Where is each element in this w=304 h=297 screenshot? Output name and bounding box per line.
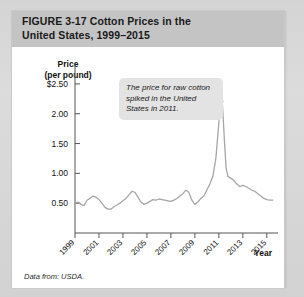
y-axis-tick-label: 1.00 [51,168,68,178]
y-axis-tick-label: 2.00 [51,109,68,119]
x-axis-tick-label: 2011 [202,238,221,257]
x-axis-tick-label: 1999 [57,238,76,257]
source-note: Data from: USDA. [24,272,84,281]
plot-area: Price (per pound) $2.502.001.501.000.501… [12,47,284,288]
x-axis-tick-label: 2003 [105,238,124,257]
figure-header: FIGURE 3-17 Cotton Prices in the United … [12,11,284,47]
x-axis-tick-label: 2005 [129,238,148,257]
y-axis-tick-label: 1.50 [51,139,68,149]
annotation-text: The price for raw cotton spiked in the U… [126,83,210,113]
x-axis-title: Year [254,248,272,258]
y-axis-tick-label: $2.50 [47,79,69,89]
y-axis-tick-label: 0.50 [51,198,68,208]
figure-number: FIGURE 3-17 [22,15,87,27]
figure-title-line2: United States, 1999–2015 [22,29,150,41]
x-axis-tick-label: 2001 [81,238,100,257]
x-axis-tick-label: 2013 [225,238,244,257]
figure-title: FIGURE 3-17 Cotton Prices in the United … [22,15,274,42]
x-axis-tick-label: 2007 [153,238,172,257]
x-axis-tick-label: 2009 [177,238,196,257]
figure-container: FIGURE 3-17 Cotton Prices in the United … [11,10,285,287]
figure-title-line1: Cotton Prices in the [90,15,191,27]
annotation-callout: The price for raw cotton spiked in the U… [119,78,223,120]
